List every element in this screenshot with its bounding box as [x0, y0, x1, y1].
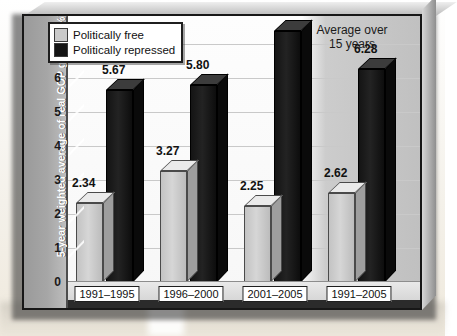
legend-item-politically-repressed: Politically repressed — [54, 43, 175, 57]
bar-side-face — [217, 74, 228, 282]
chart-panel-inner: 5.672.345.803.277.382.256.282.62 5-year … — [24, 16, 420, 308]
bar-repressed-1-value-label: 5.80 — [186, 58, 209, 72]
x-axis-category-labels: 1991–19951996–20002001–20051991–2005 — [68, 282, 420, 302]
y-tick-label-1: 1 — [39, 241, 61, 255]
chart-panel: 5.672.345.803.277.382.256.282.62 5-year … — [22, 14, 422, 310]
bar-side-face — [301, 20, 312, 282]
legend-swatch-repressed-icon — [54, 43, 68, 57]
annotation-average-over-15-years: Average over 15 years — [298, 24, 406, 52]
y-tick-label-3: 3 — [39, 173, 61, 187]
bar-front-face — [328, 193, 355, 282]
x-category-label-2: 2001–2005 — [242, 286, 307, 302]
annotation-line-1: Average over — [298, 24, 406, 38]
bar-free-2 — [244, 206, 271, 282]
bar-side-face — [133, 78, 144, 282]
y-tick-label-5: 5 — [39, 105, 61, 119]
bar-free-1 — [160, 171, 187, 282]
bar-side-face — [355, 182, 366, 282]
annotation-line-2: 15 years — [298, 38, 406, 52]
frame-right-bevel — [422, 0, 436, 310]
x-category-label-1: 1996–2000 — [158, 286, 223, 302]
bar-side-face — [187, 160, 198, 282]
legend-label-repressed: Politically repressed — [73, 44, 175, 56]
bar-front-face — [244, 206, 271, 282]
y-tick-label-6: 6 — [39, 71, 61, 85]
y-tick-label-2: 2 — [39, 207, 61, 221]
bar-free-2-value-label: 2.25 — [240, 179, 263, 193]
bar-side-face — [103, 191, 114, 282]
bar-repressed-0-value-label: 5.67 — [102, 63, 125, 77]
bar-free-3-value-label: 2.62 — [324, 166, 347, 180]
legend-swatch-free-icon — [54, 28, 68, 42]
y-tick-label-0: 0 — [39, 275, 61, 289]
legend: Politically free Politically repressed — [48, 22, 183, 63]
bar-free-1-value-label: 3.27 — [156, 144, 179, 158]
bar-free-0-value-label: 2.34 — [72, 176, 95, 190]
bar-side-face — [271, 194, 282, 282]
legend-label-free: Politically free — [73, 29, 144, 41]
y-tick-label-4: 4 — [39, 139, 61, 153]
bar-free-3 — [328, 193, 355, 282]
chart-frame: 5.672.345.803.277.382.256.282.62 5-year … — [2, 2, 436, 320]
legend-item-politically-free: Politically free — [54, 28, 175, 42]
x-category-label-3: 1991–2005 — [326, 286, 391, 302]
bar-front-face — [160, 171, 187, 282]
bar-repressed-2-value-label: 7.38 — [270, 16, 293, 18]
bar-side-face — [385, 57, 396, 282]
x-category-label-0: 1991–1995 — [74, 286, 139, 302]
